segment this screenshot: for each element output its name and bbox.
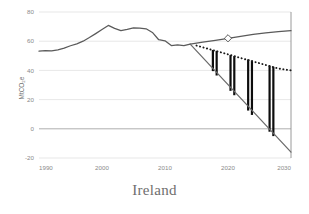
x-tick-label: 2030 — [277, 164, 291, 171]
x-tick-label: 2010 — [158, 164, 172, 171]
x-tick-label: 2020 — [221, 164, 235, 171]
y-tick-label: 60 — [27, 37, 34, 44]
y-tick-label: 40 — [27, 67, 34, 74]
y-tick-label: 0 — [31, 125, 35, 132]
chart-caption: Ireland — [0, 182, 309, 199]
x-tick-label: 1990 — [39, 164, 53, 171]
y-tick-label: 20 — [27, 96, 34, 103]
y-tick-label: -20 — [25, 154, 35, 161]
figure-container: -20020406080 19902000201020202030 MtCO₂e… — [0, 0, 309, 214]
y-tick-label: 80 — [27, 8, 34, 15]
y-axis-title: MtCO₂e — [18, 76, 25, 99]
y-axis-title-group: MtCO₂e — [18, 76, 25, 99]
x-tick-label: 2000 — [95, 164, 109, 171]
